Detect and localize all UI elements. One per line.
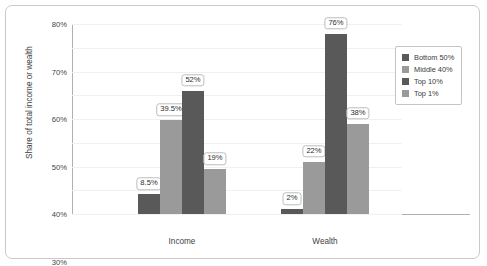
x-axis-category-label: Income [169, 237, 196, 246]
bar-value-label: 19% [203, 152, 226, 165]
bar-value-label: 22% [302, 145, 325, 158]
legend-item[interactable]: Top 1% [402, 88, 454, 99]
legend-swatch-icon [402, 90, 409, 97]
y-axis-tick-label: 30% [52, 257, 67, 266]
bar[interactable]: 39.5% [160, 120, 182, 214]
bar[interactable]: 2% [281, 209, 303, 214]
chart-legend: Bottom 50%Middle 40%Top 10%Top 1% [395, 46, 462, 105]
bar[interactable]: 52% [182, 91, 204, 215]
gridline: 50% [72, 95, 402, 96]
legend-item[interactable]: Top 10% [402, 76, 454, 87]
gridline: 80% [72, 24, 402, 25]
y-axis-title: Share of total income or wealth [25, 18, 34, 188]
bar[interactable]: 22% [303, 162, 325, 214]
legend-swatch-icon [402, 54, 409, 61]
gridline: 70% [72, 48, 402, 49]
x-axis-category-label: Wealth [312, 237, 337, 246]
plot-area: 0%10%20%30%40%50%60%70%80%8.5%39.5%52%19… [72, 24, 402, 214]
legend-item-label: Middle 40% [414, 65, 453, 74]
bar-value-label: 52% [181, 74, 204, 87]
legend-item[interactable]: Bottom 50% [402, 52, 454, 63]
legend-item-label: Bottom 50% [414, 53, 454, 62]
chart-container: Share of total income or wealth 0%10%20%… [5, 5, 480, 259]
y-axis-tick-label: 40% [52, 210, 67, 219]
legend-item[interactable]: Middle 40% [402, 64, 454, 75]
bar-value-label: 76% [324, 17, 347, 30]
legend-swatch-icon [402, 78, 409, 85]
bar-value-label: 8.5% [136, 177, 161, 190]
legend-swatch-icon [402, 66, 409, 73]
y-axis-tick-label: 50% [52, 162, 67, 171]
bar[interactable]: 38% [347, 124, 369, 214]
bar-value-label: 38% [346, 107, 369, 120]
bar[interactable]: 8.5% [138, 194, 160, 214]
legend-item-label: Top 10% [414, 77, 443, 86]
gridline: 60% [72, 72, 402, 73]
legend-item-label: Top 1% [414, 89, 439, 98]
y-axis-tick-label: 60% [52, 115, 67, 124]
y-axis-tick-label: 80% [52, 20, 67, 29]
bar-value-label: 2% [283, 193, 302, 206]
bar[interactable]: 76% [325, 34, 347, 215]
gridline: 0% [72, 214, 402, 215]
y-axis-tick-label: 70% [52, 67, 67, 76]
bar[interactable]: 19% [204, 169, 226, 214]
